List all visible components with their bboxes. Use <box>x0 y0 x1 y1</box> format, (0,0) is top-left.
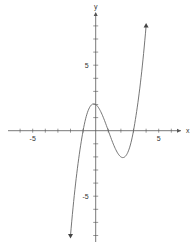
y-axis-arrow-icon <box>94 12 98 16</box>
x-axis-arrow-icon <box>177 129 181 133</box>
x-axis-label: x <box>186 127 190 134</box>
top-arrow-icon <box>144 23 149 28</box>
x-tick-label: 5 <box>157 135 161 142</box>
y-tick-label: 5 <box>85 62 89 69</box>
cubic-function-graph: xy -555-5 <box>0 0 191 245</box>
axes: xy <box>8 3 190 242</box>
y-axis-label: y <box>94 3 98 11</box>
x-tick-label: -5 <box>30 135 36 142</box>
bottom-arrow-icon <box>68 234 73 239</box>
y-tick-label: -5 <box>82 193 88 200</box>
